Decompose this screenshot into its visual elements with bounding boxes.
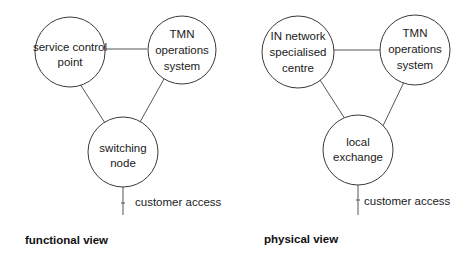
node-label-line: switching bbox=[99, 142, 146, 154]
node-label-line: local bbox=[346, 136, 370, 148]
node-circle bbox=[323, 115, 393, 185]
node-local-exchange: local exchange bbox=[323, 115, 393, 185]
network-views-diagram: service control point TMN operations sys… bbox=[0, 0, 473, 267]
functional-view-diagram: service control point TMN operations sys… bbox=[25, 16, 222, 246]
node-in-network-specialised-centre: IN network specialised centre bbox=[262, 16, 334, 88]
node-label-line: centre bbox=[282, 62, 314, 74]
node-label-line: specialised bbox=[270, 46, 327, 58]
node-service-control-point: service control point bbox=[33, 17, 107, 87]
edge-tmn-local-exchange bbox=[381, 82, 404, 130]
functional-view-caption: functional view bbox=[25, 234, 108, 246]
node-label-line: IN network bbox=[271, 30, 326, 42]
node-label-line: point bbox=[58, 56, 84, 68]
node-label-line: operations bbox=[155, 44, 209, 56]
node-label-line: exchange bbox=[333, 151, 383, 163]
node-label-line: TMN bbox=[170, 28, 195, 40]
customer-access-label: customer access bbox=[135, 196, 222, 208]
edge-tmn-switching-node bbox=[140, 79, 164, 122]
physical-view-diagram: IN network specialised centre TMN operat… bbox=[262, 15, 451, 245]
node-tmn-operations-system: TMN operations system bbox=[148, 16, 216, 84]
node-label-line: operations bbox=[388, 43, 442, 55]
node-tmn-operations-system: TMN operations system bbox=[380, 15, 450, 85]
node-label-line: TMN bbox=[403, 27, 428, 39]
edge-scp-switching-node bbox=[80, 84, 105, 123]
node-label-line: system bbox=[164, 60, 200, 72]
node-label-line: system bbox=[397, 59, 433, 71]
edge-in-centre-local-exchange bbox=[320, 80, 347, 122]
customer-access-label: customer access bbox=[364, 195, 451, 207]
node-switching-node: switching node bbox=[88, 117, 158, 187]
node-label-line: service control bbox=[33, 41, 107, 53]
physical-view-caption: physical view bbox=[264, 233, 338, 245]
node-label-line: node bbox=[110, 157, 136, 169]
